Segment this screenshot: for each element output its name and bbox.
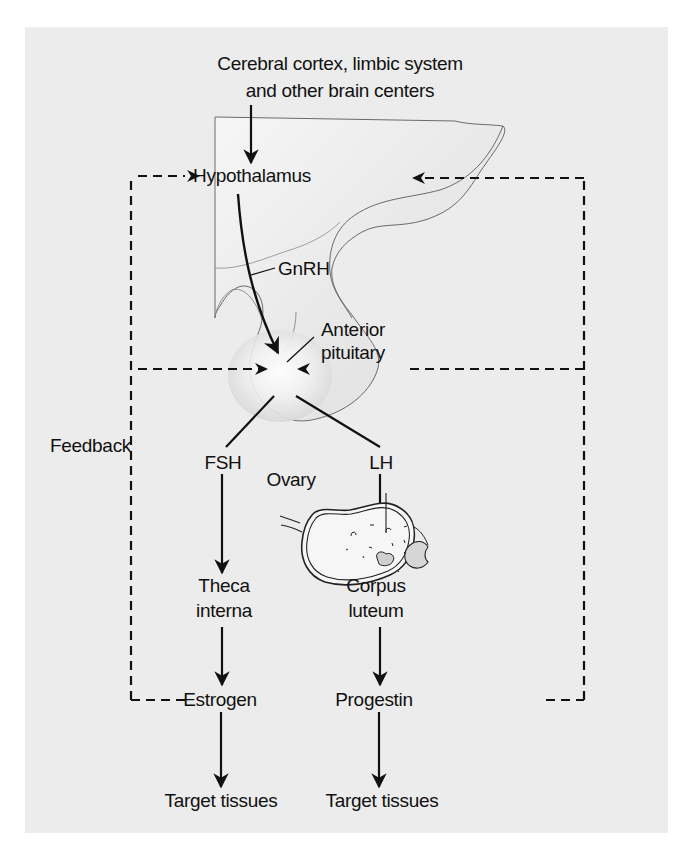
fsh-label: FSH — [204, 451, 241, 474]
theca-interna-label-line1: Theca — [198, 574, 249, 597]
lh-label: LH — [369, 451, 393, 474]
ovary-label: Ovary — [266, 468, 315, 491]
ovary-illustration — [280, 493, 428, 585]
target-tissues-right-label: Target tissues — [325, 789, 438, 812]
feedback-label: Feedback — [50, 434, 131, 457]
target-tissues-left-label: Target tissues — [164, 789, 277, 812]
brain-tissue-illustration — [215, 117, 505, 422]
corpus-luteum-label-line1: Corpus — [346, 574, 405, 597]
anterior-pituitary-label-line2: pituitary — [321, 341, 385, 364]
estrogen-label: Estrogen — [183, 688, 257, 711]
source-label-line2: and other brain centers — [246, 79, 435, 102]
corpus-luteum-label-line2: luteum — [348, 599, 403, 622]
hypothalamus-label: Hypothalamus — [193, 164, 311, 187]
hormone-regulation-diagram — [0, 0, 682, 847]
theca-interna-label-line2: interna — [196, 599, 252, 622]
gnrh-label: GnRH — [278, 257, 330, 280]
anterior-pituitary-label-line1: Anterior — [321, 318, 385, 341]
progestin-label: Progestin — [335, 688, 413, 711]
source-label-line1: Cerebral cortex, limbic system — [217, 52, 462, 75]
